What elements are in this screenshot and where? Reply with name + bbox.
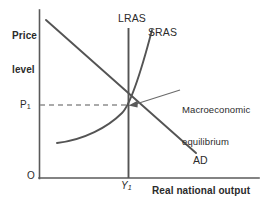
y-axis-title: Price level [12,8,37,98]
price-tick-letter: P [20,99,27,110]
macroeconomic-equilibrium-annotation: Macroeconomic equilibrium [182,84,250,169]
macroeconomic-equilibrium-figure: Price level Real national output O P1 Y1… [0,0,268,210]
ad-curve [46,20,196,153]
equilibrium-annotation-line-1: Macroeconomic [182,105,250,116]
sras-curve [57,30,152,143]
output-tick-subscript: 1 [128,183,132,192]
price-tick-subscript: 1 [27,102,31,111]
x-axis-title: Real national output [152,185,250,196]
y-axis-title-line-1: Price [12,30,37,41]
output-tick-label: Y1 [121,180,132,192]
equilibrium-leader-line [136,90,180,104]
output-tick-letter: Y [121,180,128,191]
origin-label: O [27,170,35,181]
equilibrium-annotation-line-2: equilibrium [182,137,250,148]
y-axis-title-line-2: level [12,64,37,75]
lras-curve-label: LRAS [118,13,146,25]
price-tick-label: P1 [20,99,31,111]
sras-curve-label: SRAS [148,27,177,39]
